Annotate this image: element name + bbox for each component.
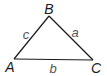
vertex-label-c: C xyxy=(91,61,101,75)
side-c-line xyxy=(14,16,49,59)
side-label-b: b xyxy=(49,62,56,75)
triangle-diagram: B A C c a b xyxy=(0,0,107,76)
vertex-label-b: B xyxy=(44,2,53,16)
vertex-label-a: A xyxy=(5,60,14,74)
side-label-a: a xyxy=(71,26,78,39)
side-label-c: c xyxy=(23,28,30,41)
